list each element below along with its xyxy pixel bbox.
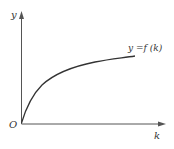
function-curve: [22, 56, 136, 123]
y-axis-label: y: [10, 9, 17, 20]
x-axis-arrow-icon: [158, 122, 166, 127]
origin-label: O: [9, 119, 17, 130]
x-axis-label: k: [154, 130, 160, 141]
production-function-diagram: y O k y =f (k): [0, 0, 174, 149]
curve-label: y =f (k): [127, 43, 163, 53]
y-axis-arrow-icon: [19, 11, 24, 19]
